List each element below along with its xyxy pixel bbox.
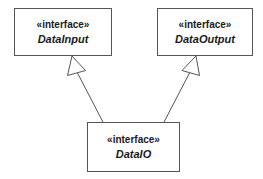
class-name-label: DataIO <box>116 147 151 161</box>
stereotype-label: «interface» <box>107 133 160 146</box>
edge-dataio-to-datainput <box>68 56 105 124</box>
stereotype-label: «interface» <box>37 18 90 31</box>
stereotype-label: «interface» <box>179 18 232 31</box>
edge-line-dataio-datainput <box>78 73 105 124</box>
uml-class-diagram: «interface» DataInput «interface» DataOu… <box>0 0 263 179</box>
edge-dataio-to-dataoutput <box>163 56 200 124</box>
edge-line-dataio-dataoutput <box>163 73 190 124</box>
hollow-triangle-arrowhead-icon <box>68 56 86 76</box>
hollow-triangle-arrowhead-icon <box>182 56 200 76</box>
uml-class-node-dataio[interactable]: «interface» DataIO <box>87 122 180 172</box>
uml-class-node-datainput[interactable]: «interface» DataInput <box>14 8 112 56</box>
uml-class-node-dataoutput[interactable]: «interface» DataOutput <box>157 8 253 56</box>
class-name-label: DataInput <box>38 32 89 46</box>
class-name-label: DataOutput <box>175 32 235 46</box>
